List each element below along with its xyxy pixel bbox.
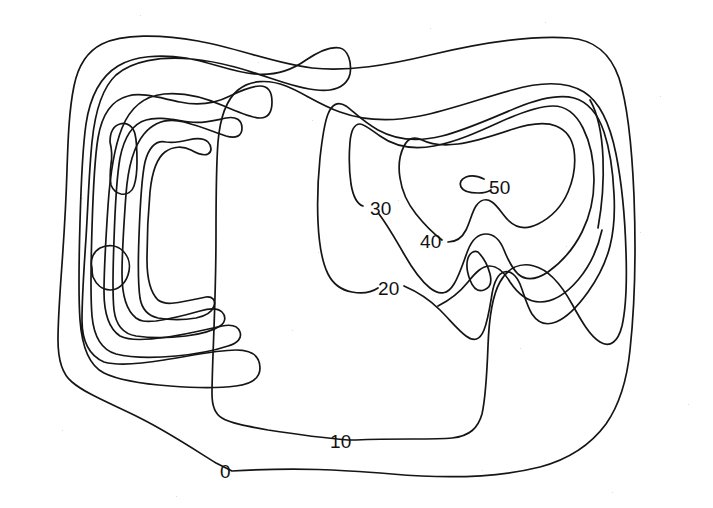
paper-speck [612,492,613,493]
paper-speck [545,22,546,23]
paper-speck [640,232,641,233]
contour-line-level-30 [138,139,214,320]
contour-line-level-20 [113,117,242,337]
contour-elevation-label-20: 20 [378,279,400,298]
contour-lines-canvas [0,0,713,508]
paper-speck [62,430,63,431]
contour-elevation-label-50: 50 [489,178,511,197]
contour-elevation-label-10: 10 [330,432,352,451]
contour-line-level-10 [590,100,603,228]
paper-speck [318,252,319,253]
paper-speck [520,348,521,349]
paper-speck [430,28,431,29]
paper-speck [176,496,177,497]
paper-speck [660,96,661,97]
contour-line-level-40 [399,123,575,242]
contour-line-level-50 [460,176,491,193]
paper-speck [312,120,313,121]
paper-speck [482,470,483,471]
contour-elevation-label-30: 30 [370,199,392,218]
paper-speck [398,200,399,201]
paper-speck [688,404,689,405]
paper-speck [140,15,141,16]
paper-speck [258,62,259,63]
contour-line-level-0 [58,36,635,477]
paper-speck [566,246,567,247]
contour-elevation-label-0: 0 [220,462,231,481]
paper-speck [292,330,293,331]
contour-map-figure: 50403020100 [0,0,713,508]
contour-path-group [58,36,635,477]
contour-line-level-40 [91,246,129,290]
paper-speck [82,198,83,199]
contour-line-level-10 [212,81,626,440]
contour-elevation-label-40: 40 [420,232,442,251]
contour-line-level-20 [318,97,615,340]
